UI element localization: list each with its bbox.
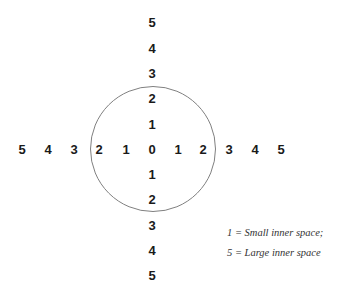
horizontal-scale-label: 0 [148, 143, 155, 156]
horizontal-scale-label: 3 [225, 143, 232, 156]
vertical-scale-label: 4 [148, 244, 155, 257]
vertical-scale-label: 1 [148, 118, 155, 131]
legend-line-2: 5 = Large inner space [227, 247, 321, 258]
inner-space-diagram: 543211234554321012345 1 = Small inner sp… [0, 0, 341, 296]
legend-line-1: 1 = Small inner space; [227, 227, 323, 238]
horizontal-scale-label: 3 [70, 143, 77, 156]
vertical-scale-label: 1 [148, 168, 155, 181]
horizontal-scale-label: 4 [44, 143, 51, 156]
horizontal-scale-label: 4 [251, 143, 258, 156]
vertical-scale-label: 5 [148, 16, 155, 29]
horizontal-scale-label: 2 [199, 143, 206, 156]
horizontal-scale-label: 1 [122, 143, 129, 156]
vertical-scale-label: 3 [148, 219, 155, 232]
vertical-scale-label: 3 [148, 67, 155, 80]
vertical-scale-label: 2 [148, 92, 155, 105]
vertical-scale-label: 2 [148, 193, 155, 206]
vertical-scale-label: 5 [148, 269, 155, 282]
horizontal-scale-label: 5 [277, 143, 284, 156]
vertical-scale-label: 4 [148, 42, 155, 55]
horizontal-scale-label: 2 [95, 143, 102, 156]
horizontal-scale-label: 5 [18, 143, 25, 156]
horizontal-scale-label: 1 [174, 143, 181, 156]
